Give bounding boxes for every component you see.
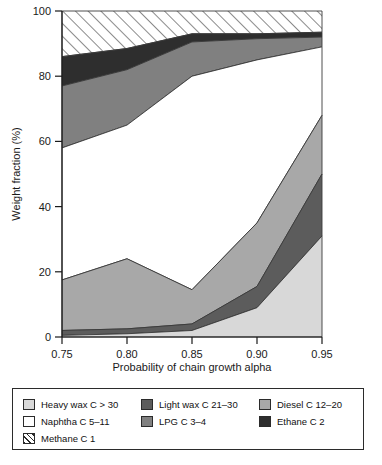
y-tick-label: 0	[45, 331, 51, 343]
y-tick-label: 60	[39, 135, 51, 147]
stacked-area-chart: 020406080100 0.750.800.850.900.95 Weight…	[0, 0, 382, 380]
legend-label: Light wax C 21–30	[159, 399, 238, 410]
y-tick-label: 100	[33, 5, 51, 17]
x-tick-label: 0.85	[181, 348, 202, 360]
legend-swatch	[141, 399, 153, 410]
legend-item[interactable]: Methane C 1	[23, 433, 141, 444]
legend-swatch	[259, 416, 271, 427]
y-tick-group: 020406080100	[33, 5, 62, 343]
legend-swatch	[141, 416, 153, 427]
y-tick-label: 20	[39, 266, 51, 278]
figure-root: 020406080100 0.750.800.850.900.95 Weight…	[0, 0, 382, 465]
legend-grid: Heavy wax C > 30Light wax C 21–30Diesel …	[23, 396, 355, 447]
legend-item[interactable]: Ethane C 2	[259, 416, 369, 427]
legend-item[interactable]: Light wax C 21–30	[141, 399, 259, 410]
x-tick-label: 0.95	[311, 348, 332, 360]
legend-label: Ethane C 2	[277, 416, 325, 427]
legend-swatch	[23, 433, 35, 444]
legend-label: Methane C 1	[41, 433, 95, 444]
area-band-group	[62, 11, 322, 337]
chart-legend: Heavy wax C > 30Light wax C 21–30Diesel …	[12, 388, 364, 450]
legend-item[interactable]: Naphtha C 5–11	[23, 416, 141, 427]
y-tick-label: 40	[39, 201, 51, 213]
x-tick-label: 0.90	[246, 348, 267, 360]
x-axis-title: Probability of chain growth alpha	[113, 361, 273, 373]
x-tick-group: 0.750.800.850.900.95	[51, 337, 332, 360]
legend-label: Diesel C 12–20	[277, 399, 342, 410]
legend-swatch	[23, 416, 35, 427]
legend-item[interactable]: LPG C 3–4	[141, 416, 259, 427]
x-tick-label: 0.75	[51, 348, 72, 360]
legend-label: LPG C 3–4	[159, 416, 206, 427]
legend-item[interactable]: Heavy wax C > 30	[23, 399, 141, 410]
legend-item[interactable]: Diesel C 12–20	[259, 399, 369, 410]
y-tick-label: 80	[39, 70, 51, 82]
legend-swatch	[23, 399, 35, 410]
chart-plot-area: 020406080100 0.750.800.850.900.95 Weight…	[0, 0, 382, 380]
legend-swatch	[259, 399, 271, 410]
y-axis-title: Weight fraction (%)	[10, 127, 22, 220]
legend-label: Naphtha C 5–11	[41, 416, 110, 427]
x-tick-label: 0.80	[116, 348, 137, 360]
legend-label: Heavy wax C > 30	[41, 399, 118, 410]
